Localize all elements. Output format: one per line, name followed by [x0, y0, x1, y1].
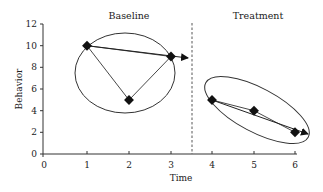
data-point	[290, 127, 300, 137]
treatment-label: Treatment	[233, 10, 284, 21]
treatment-data-points	[207, 95, 300, 137]
y-tick-label: 12	[26, 19, 37, 29]
y-tick-label: 2	[31, 127, 37, 137]
x-tick-label: 0	[41, 160, 47, 170]
single-case-design-chart: 0 2 4 6 8 10 12 0 1 2 3 4 5 6 Time	[0, 0, 323, 192]
y-tick-label: 4	[31, 106, 37, 116]
x-tick-label: 6	[292, 160, 298, 170]
x-tick-label: 2	[126, 160, 132, 170]
x-tick-label: 3	[168, 160, 174, 170]
y-tick-label: 0	[31, 149, 37, 159]
y-axis-label: Behavior	[14, 68, 24, 109]
y-tick-label: 10	[26, 41, 38, 51]
y-tick-label: 6	[31, 84, 37, 94]
baseline-label: Baseline	[109, 10, 150, 21]
x-axis-label: Time	[170, 173, 193, 183]
x-tick-label: 5	[251, 160, 257, 170]
y-tick-label: 8	[31, 62, 37, 72]
baseline-phase	[75, 33, 188, 113]
x-tick-label: 1	[84, 160, 90, 170]
x-tick-label: 4	[209, 160, 215, 170]
data-point	[82, 41, 92, 51]
x-tick-labels: 0 1 2 3 4 5 6	[41, 160, 298, 170]
baseline-triangle	[87, 46, 171, 100]
treatment-phase	[195, 63, 318, 156]
y-tick-labels: 0 2 4 6 8 10 12	[26, 19, 38, 159]
axes: 0 2 4 6 8 10 12 0 1 2 3 4 5 6 Time	[14, 19, 298, 183]
data-point	[207, 95, 217, 105]
